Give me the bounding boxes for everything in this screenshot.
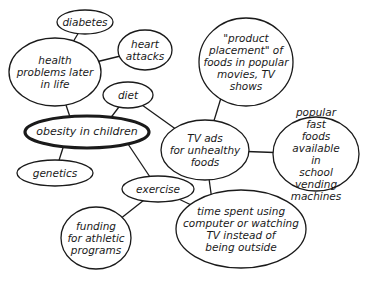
label-obesity-in-children: obesity in children (36, 126, 138, 138)
label-diet: diet (118, 89, 138, 101)
label-tv-ads: TV ads for unhealthy foods (170, 132, 241, 168)
label-fast-foods: popular fast foods available in school v… (291, 106, 342, 202)
label-funding: funding for athletic programs (67, 220, 124, 256)
label-genetics: genetics (33, 167, 78, 179)
label-exercise: exercise (136, 183, 180, 195)
label-time-spent: time spent using computer or watching TV… (183, 205, 299, 253)
label-diabetes: diabetes (62, 16, 107, 28)
label-health-problems: health problems later in life (17, 54, 94, 90)
label-product-placement: "product placement" of foods in popular … (203, 32, 288, 92)
label-heart-attacks: heart attacks (126, 38, 164, 62)
